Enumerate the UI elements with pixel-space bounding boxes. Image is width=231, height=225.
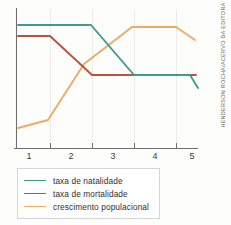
x-tick-label-3: 3 [103, 150, 123, 162]
legend-label: crescimento populacional [53, 202, 149, 212]
grid-lines [51, 10, 177, 148]
image-credit: HENDERSON ROCHA/ACERVO DA EDITORA [216, 0, 230, 160]
legend-item-crescimento-populacional: crescimento populacional [24, 200, 153, 213]
image-credit-text: HENDERSON ROCHA/ACERVO DA EDITORA [220, 2, 226, 127]
legend-swatch-icon [24, 206, 46, 207]
x-tick-label-4: 4 [145, 150, 165, 162]
x-tick-label-1: 1 [19, 150, 39, 162]
legend-label: taxa de mortalidade [53, 189, 128, 199]
legend-item-taxa-de-mortalidade: taxa de mortalidade [24, 187, 153, 200]
legend-label: taxa de natalidade [53, 176, 123, 186]
x-tick-label-5: 5 [182, 150, 202, 162]
demographic-transition-figure: 1 2 3 4 5 taxa de natalidade taxa de mor… [0, 0, 231, 225]
axes [14, 8, 198, 149]
series-line-taxa-de-mortalidade [18, 36, 196, 75]
chart-plot-area: 1 2 3 4 5 [0, 0, 200, 160]
x-tick-marks [51, 143, 177, 148]
legend-item-taxa-de-natalidade: taxa de natalidade [24, 174, 153, 187]
x-axis-labels: 1 2 3 4 5 [0, 150, 200, 164]
series-line-taxa-de-natalidade [18, 25, 198, 88]
legend-swatch-icon [24, 180, 46, 181]
chart-svg [0, 0, 200, 160]
x-tick-label-2: 2 [61, 150, 81, 162]
chart-legend: taxa de natalidade taxa de mortalidade c… [17, 168, 160, 219]
legend-swatch-icon [24, 193, 46, 194]
